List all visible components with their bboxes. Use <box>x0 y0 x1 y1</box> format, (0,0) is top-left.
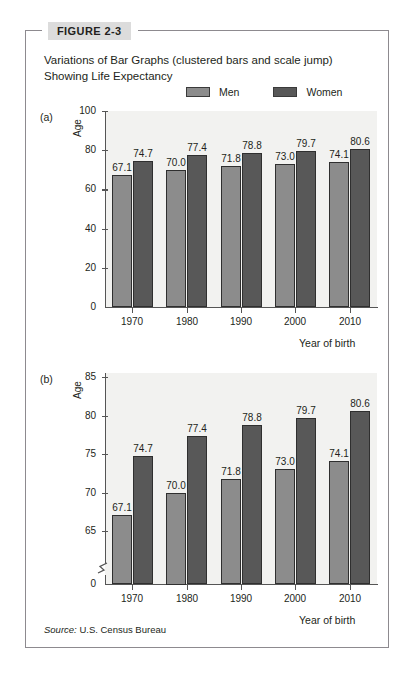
b-y-tick <box>102 454 108 455</box>
panel-b-x-axis-title: Year of birth <box>299 614 355 626</box>
b-y-tick <box>102 416 108 417</box>
a-bar-women-1990 <box>242 153 262 307</box>
a-y-tick <box>102 189 108 190</box>
figure-source: Source: U.S. Census Bureau <box>44 624 166 635</box>
a-y-tick-label: 100 <box>70 106 96 116</box>
panel-a-y-axis-title: Age <box>72 119 83 137</box>
b-bar-value-label: 77.4 <box>180 423 214 434</box>
b-bar-women-2000 <box>296 418 316 584</box>
b-bar-women-1970 <box>133 456 153 584</box>
a-bar-men-1970 <box>112 175 132 307</box>
a-x-tick-label: 1990 <box>218 316 264 327</box>
b-x-tick <box>350 584 351 590</box>
a-x-tick-label: 2000 <box>272 316 318 327</box>
a-bar-value-label: 80.6 <box>343 136 377 147</box>
a-bar-value-label: 78.8 <box>235 140 269 151</box>
a-bar-men-2010 <box>329 162 349 307</box>
b-x-tick-label: 1980 <box>164 593 210 604</box>
b-bar-men-1980 <box>166 493 186 585</box>
a-bar-women-1970 <box>133 161 153 307</box>
b-bar-men-2000 <box>275 469 295 584</box>
a-y-tick-label: 40 <box>70 224 96 234</box>
a-y-tick <box>102 111 108 112</box>
panel-a-x-axis-title: Year of birth <box>299 337 355 349</box>
a-y-tick <box>102 229 108 230</box>
a-y-tick-label: 60 <box>70 184 96 194</box>
chart-panel-a: (a) Age 020406080100 67.174.770.077.471.… <box>26 109 390 344</box>
b-x-tick <box>241 584 242 590</box>
figure-source-lead: Source: <box>44 624 77 635</box>
figure-page: FIGURE 2-3 Variations of Bar Graphs (clu… <box>0 0 414 682</box>
b-y-tick-label: 85 <box>70 372 96 382</box>
a-bar-value-label: 74.7 <box>126 148 160 159</box>
a-y-tick-label: 20 <box>70 263 96 273</box>
a-bar-men-1990 <box>221 166 241 307</box>
figure-number-badge: FIGURE 2-3 <box>48 22 131 40</box>
a-y-tick <box>102 150 108 151</box>
chart-legend: Men Women <box>186 86 342 98</box>
b-y-tick-label: 75 <box>70 449 96 459</box>
b-x-tick-label: 1990 <box>218 593 264 604</box>
b-bar-men-1970 <box>112 515 132 584</box>
b-bar-value-label: 80.6 <box>343 398 377 409</box>
a-bar-women-2000 <box>296 151 316 307</box>
b-y-tick-label: 70 <box>70 488 96 498</box>
figure-title: Variations of Bar Graphs (clustered bars… <box>44 53 364 84</box>
a-x-tick <box>132 307 133 313</box>
a-x-tick <box>241 307 242 313</box>
a-x-tick-label: 1980 <box>164 316 210 327</box>
legend-label-men: Men <box>219 86 239 98</box>
panel-a-letter: (a) <box>40 111 53 123</box>
legend-item-men: Men <box>186 86 239 98</box>
legend-label-women: Women <box>306 86 342 98</box>
panel-b-letter: (b) <box>40 373 53 385</box>
b-bar-women-1980 <box>187 436 207 584</box>
a-bar-value-label: 79.7 <box>289 138 323 149</box>
b-bar-women-1990 <box>242 425 262 584</box>
a-x-tick <box>350 307 351 313</box>
b-y-tick <box>102 493 108 494</box>
b-y-tick-label: 65 <box>70 526 96 536</box>
b-y-tick <box>102 531 108 532</box>
b-y-tick-label: 80 <box>70 411 96 421</box>
a-bar-men-1980 <box>166 170 186 307</box>
a-x-tick <box>295 307 296 313</box>
a-y-tick-label: 0 <box>70 302 96 312</box>
b-y-tick <box>102 377 108 378</box>
b-bar-value-label: 74.7 <box>126 443 160 454</box>
a-x-tick-label: 2010 <box>327 316 373 327</box>
a-bar-women-1980 <box>187 155 207 307</box>
b-x-tick-label: 1970 <box>109 593 155 604</box>
b-bar-women-2010 <box>350 411 370 584</box>
panel-a-y-axis-line <box>105 111 106 308</box>
a-y-tick <box>102 268 108 269</box>
figure-source-text: U.S. Census Bureau <box>79 624 166 635</box>
panel-b-y-axis-title: Age <box>72 381 83 399</box>
b-x-tick <box>295 584 296 590</box>
a-bar-women-2010 <box>350 149 370 307</box>
b-x-tick-label: 2010 <box>327 593 373 604</box>
b-x-tick-label: 2000 <box>272 593 318 604</box>
b-x-tick <box>132 584 133 590</box>
a-bar-value-label: 77.4 <box>180 142 214 153</box>
b-bar-value-label: 79.7 <box>289 405 323 416</box>
legend-swatch-men-icon <box>186 87 210 97</box>
legend-item-women: Women <box>273 86 342 98</box>
legend-swatch-women-icon <box>273 87 297 97</box>
a-y-tick-label: 80 <box>70 145 96 155</box>
b-y-tick-label: 0 <box>70 579 96 589</box>
a-x-tick-label: 1970 <box>109 316 155 327</box>
b-bar-value-label: 78.8 <box>235 412 269 423</box>
a-bar-men-2000 <box>275 164 295 307</box>
b-x-tick <box>187 584 188 590</box>
a-x-tick <box>187 307 188 313</box>
figure-frame: FIGURE 2-3 Variations of Bar Graphs (clu… <box>25 30 389 648</box>
chart-panel-b: (b) Age 06570758085 67.174.770.077.471.8… <box>26 371 390 621</box>
b-bar-men-1990 <box>221 479 241 584</box>
panel-b-y-axis-line <box>105 373 106 564</box>
b-bar-men-2010 <box>329 461 349 584</box>
